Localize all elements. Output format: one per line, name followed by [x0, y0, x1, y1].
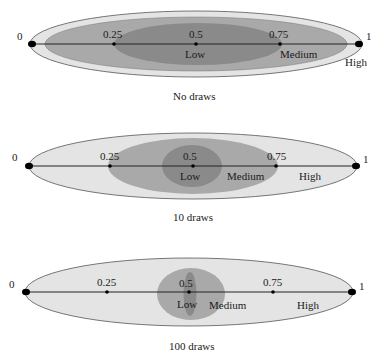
region-label-low: Low: [180, 170, 200, 182]
endpoint-dot-0: [25, 163, 33, 170]
region-label-high: High: [297, 299, 320, 311]
tick-label-05: 0.5: [183, 150, 197, 162]
region-label-medium: Medium: [209, 299, 247, 311]
tick-dot-025: [105, 290, 109, 294]
axis-min-label: 0: [17, 30, 23, 42]
axis-min-label: 0: [12, 151, 18, 163]
axis-max-label: 1: [366, 30, 371, 42]
endpoint-dot-1: [348, 289, 356, 296]
tick-dot-05: [191, 164, 195, 168]
region-label-low: Low: [185, 48, 205, 60]
region-label-medium: Medium: [280, 48, 318, 60]
axis-min-label: 0: [9, 278, 15, 290]
endpoint-dot-0: [22, 289, 30, 296]
panel-caption: 100 draws: [169, 340, 215, 352]
axis-max-label: 1: [363, 153, 369, 165]
panel-no-draws: 0 1 0.25 0.5 0.75 Low Medium High No dra…: [17, 11, 371, 102]
tick-label-025: 0.25: [97, 276, 117, 288]
panel-10-draws: 0 1 0.25 0.5 0.75 Low Medium High 10 dra…: [12, 133, 369, 223]
endpoint-dot-1: [355, 41, 363, 48]
tick-dot-025: [112, 42, 116, 46]
tick-dot-075: [274, 164, 278, 168]
region-label-medium: Medium: [227, 170, 265, 182]
tick-dot-075: [278, 42, 282, 46]
tick-label-05: 0.5: [189, 28, 203, 40]
tick-dot-05: [194, 42, 198, 46]
tick-dot-025: [108, 164, 112, 168]
axis-max-label: 1: [359, 280, 365, 292]
tick-label-05: 0.5: [179, 277, 193, 289]
panel-caption: No draws: [173, 90, 215, 102]
tick-label-075: 0.75: [269, 28, 289, 40]
region-label-high: High: [299, 170, 322, 182]
region-label-high: High: [345, 56, 368, 68]
tick-dot-05: [187, 290, 191, 294]
panel-caption: 10 draws: [173, 211, 213, 223]
tick-label-025: 0.25: [103, 28, 123, 40]
panel-100-draws: 0 1 0.25 0.5 0.75 Low Medium High 100 dr…: [9, 258, 365, 352]
endpoint-dot-1: [352, 163, 360, 170]
endpoint-dot-0: [28, 41, 36, 48]
tick-label-075: 0.75: [263, 276, 283, 288]
tick-label-025: 0.25: [100, 150, 120, 162]
region-label-low: Low: [177, 298, 197, 310]
tick-label-075: 0.75: [267, 150, 287, 162]
draws-diagram: 0 1 0.25 0.5 0.75 Low Medium High No dra…: [0, 0, 371, 357]
tick-dot-075: [271, 290, 275, 294]
